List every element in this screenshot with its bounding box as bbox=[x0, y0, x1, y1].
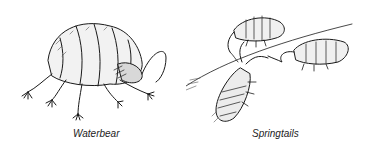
springtails-figure: Springtails bbox=[186, 0, 373, 151]
waterbear-figure: Waterbear bbox=[0, 0, 186, 151]
springtails-caption: Springtails bbox=[252, 128, 299, 139]
waterbear-caption: Waterbear bbox=[73, 128, 120, 139]
